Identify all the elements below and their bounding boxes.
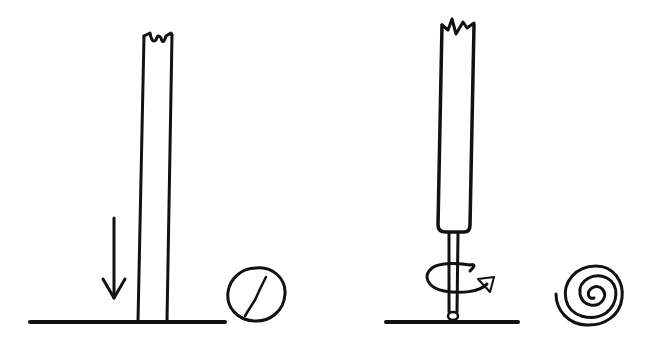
illustration-canvas [0,0,654,353]
left-panel [30,33,285,322]
rotation-arrow-icon [427,263,494,292]
left-rod [138,33,172,321]
down-arrow-icon [103,218,125,298]
spiral-icon [556,266,622,325]
right-panel [386,19,622,325]
rotating-tip [448,233,458,320]
illustration-svg [0,0,654,353]
right-handle [438,19,474,232]
cracked-disc-icon [228,268,285,321]
